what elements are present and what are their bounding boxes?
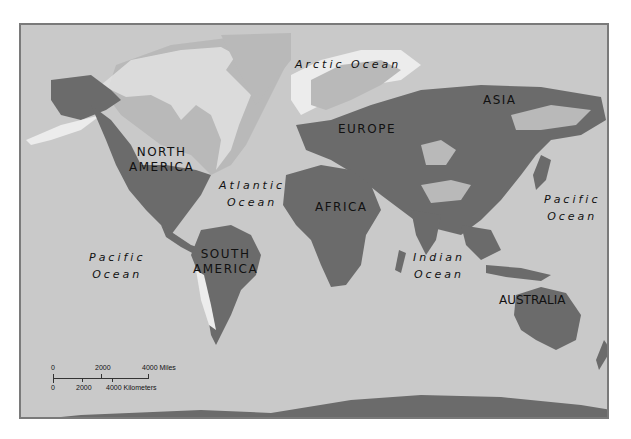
label-pacific-ocean-west: Pacific Ocean bbox=[89, 249, 145, 283]
label-arctic-ocean: Arctic Ocean bbox=[295, 56, 401, 73]
label-africa: AFRICA bbox=[315, 200, 368, 214]
africa bbox=[283, 165, 381, 287]
scale-km-4000: 4000 Kilometers bbox=[106, 384, 157, 391]
label-atlantic-line2: Ocean bbox=[219, 194, 285, 211]
scale-miles-4000: 4000 Miles bbox=[142, 364, 176, 371]
antarctica bbox=[21, 395, 609, 419]
scale-tick-miles-4000 bbox=[148, 374, 149, 378]
scale-tick-miles-2000 bbox=[101, 374, 102, 378]
label-atlantic-line1: Atlantic bbox=[219, 177, 285, 194]
label-pacific-ocean-east: Pacific Ocean bbox=[544, 191, 600, 225]
label-pacific-west-line2: Ocean bbox=[89, 266, 145, 283]
scale-miles-0: 0 bbox=[51, 364, 55, 371]
indonesia bbox=[486, 265, 551, 281]
new-zealand bbox=[596, 340, 609, 370]
map-frame: NORTH AMERICA SOUTH AMERICA EUROPE AFRIC… bbox=[19, 23, 609, 419]
label-indian-line1: Indian bbox=[413, 249, 465, 266]
aleutian-ice bbox=[26, 115, 101, 145]
scale-tick-km-4000 bbox=[112, 378, 113, 382]
scale-km-2000: 2000 bbox=[76, 384, 92, 391]
label-south-america-line2: AMERICA bbox=[193, 262, 258, 277]
label-australia: AUSTRALIA bbox=[499, 293, 565, 307]
label-europe: EUROPE bbox=[338, 122, 396, 136]
scale-bar-line bbox=[53, 378, 149, 379]
madagascar bbox=[395, 250, 406, 273]
scale-tick-0 bbox=[53, 374, 54, 383]
label-north-america-line1: NORTH bbox=[129, 145, 194, 160]
label-north-america: NORTH AMERICA bbox=[129, 145, 194, 175]
scale-bar: 0 2000 4000 Miles 0 2000 4000 Kilometers bbox=[51, 367, 191, 397]
japan bbox=[533, 155, 551, 190]
label-south-america: SOUTH AMERICA bbox=[193, 247, 258, 277]
scale-miles-2000: 2000 bbox=[95, 364, 111, 371]
world-map-graphic bbox=[21, 25, 609, 419]
label-indian-ocean: Indian Ocean bbox=[413, 249, 465, 283]
label-pacific-west-line1: Pacific bbox=[89, 249, 145, 266]
label-atlantic-ocean: Atlantic Ocean bbox=[219, 177, 285, 211]
label-pacific-east-line1: Pacific bbox=[544, 191, 600, 208]
scale-km-0: 0 bbox=[51, 384, 55, 391]
scale-tick-km-2000 bbox=[82, 378, 83, 382]
label-north-america-line2: AMERICA bbox=[129, 160, 194, 175]
se-asia bbox=[461, 225, 501, 260]
label-pacific-east-line2: Ocean bbox=[544, 208, 600, 225]
label-south-america-line1: SOUTH bbox=[193, 247, 258, 262]
label-asia: ASIA bbox=[483, 93, 517, 107]
label-indian-line2: Ocean bbox=[413, 266, 465, 283]
